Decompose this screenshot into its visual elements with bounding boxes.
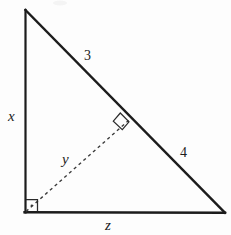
hypotenuse-line: [26, 10, 226, 213]
hypotenuse-upper-label: 3: [84, 49, 91, 63]
horizontal-leg-line: [25, 212, 226, 213]
scan-artifact: [53, 1, 67, 6]
right-angle-dot-bottom-left: [31, 205, 33, 207]
vertical-leg-label: x: [8, 109, 15, 124]
hypotenuse-lower-label: 4: [180, 146, 187, 160]
altitude-dashed-line: [26, 121, 129, 212]
horizontal-leg-label: z: [105, 218, 111, 233]
geometry-figure: 3 4 x y z: [0, 0, 231, 235]
triangle-diagram-svg: [0, 0, 231, 235]
altitude-label: y: [62, 152, 69, 167]
